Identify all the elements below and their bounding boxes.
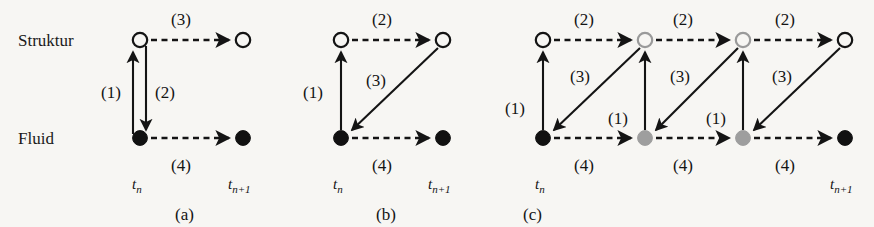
panel-c: (1) (1) (1) (2) (2) (2) (3) (3) (3) (4) … (505, 10, 853, 224)
panel-c-label-4-first: (4) (574, 156, 594, 175)
panel-c-label-1-first: (1) (505, 99, 525, 118)
panel-c-label-3-third: (3) (772, 67, 792, 86)
panel-b-caption: (b) (376, 205, 396, 224)
panel-c-label-2-third: (2) (775, 10, 795, 29)
row-label-fluid: Fluid (18, 129, 54, 148)
panel-c-time-start: tn (535, 176, 545, 195)
panel-c-label-2-second: (2) (673, 10, 693, 29)
panel-b-label-2: (2) (372, 10, 392, 29)
panel-c-node-struktur-3 (838, 33, 852, 47)
panel-c-label-1-second: (1) (608, 109, 628, 128)
figure-root: Struktur Fluid (1) (2) (3) (4) tn (0, 0, 874, 227)
panel-c-node-fluid-3 (838, 131, 853, 146)
panel-c-node-fluid-1 (638, 131, 653, 146)
panel-b-node-fluid-end (436, 131, 451, 146)
panel-a-caption: (a) (175, 205, 194, 224)
panel-c-node-fluid-0 (536, 131, 551, 146)
row-label-struktur: Struktur (18, 31, 74, 50)
panel-b-label-4: (4) (372, 156, 392, 175)
panel-c-node-fluid-2 (736, 131, 751, 146)
panel-c-node-struktur-2 (736, 33, 750, 47)
panel-c-time-end: tn+1 (830, 176, 853, 195)
panel-c-edge-3-third (754, 48, 840, 130)
panel-c-label-3-first: (3) (570, 67, 590, 86)
panel-c-node-struktur-0 (536, 33, 550, 47)
panel-c-label-4-third: (4) (775, 156, 795, 175)
panel-c-label-4-second: (4) (673, 156, 693, 175)
panel-c-label-3-second: (3) (670, 67, 690, 86)
panel-a-node-fluid-end (236, 131, 251, 146)
panel-a-time-start: tn (132, 176, 142, 195)
panel-c-node-struktur-1 (638, 33, 652, 47)
panel-b-time-end: tn+1 (428, 176, 451, 195)
panel-a-node-struktur-start (133, 33, 147, 47)
panel-a-label-1: (1) (101, 83, 121, 102)
panel-c-label-2-first: (2) (574, 10, 594, 29)
panel-b-label-3: (3) (366, 71, 386, 90)
panel-b-time-start: tn (333, 176, 343, 195)
panel-b-node-struktur-end (436, 33, 450, 47)
panel-a-node-fluid-start (133, 131, 148, 146)
panel-b-node-struktur-start (334, 33, 348, 47)
panel-a-label-2: (2) (155, 83, 175, 102)
panel-b-node-fluid-start (334, 131, 349, 146)
panel-a-label-3: (3) (171, 10, 191, 29)
panel-a-node-struktur-end (236, 33, 250, 47)
coupling-scheme-diagram: Struktur Fluid (1) (2) (3) (4) tn (0, 0, 874, 227)
panel-b-edge-3 (352, 48, 438, 130)
panel-b: (1) (2) (3) (4) tn tn+1 (b) (303, 10, 451, 224)
panel-c-caption: (c) (523, 205, 542, 224)
panel-a-label-4: (4) (171, 156, 191, 175)
panel-b-label-1: (1) (303, 83, 323, 102)
panel-a: (1) (2) (3) (4) tn tn+1 (a) (101, 10, 251, 224)
panel-a-time-end: tn+1 (228, 176, 251, 195)
panel-c-label-1-third: (1) (706, 109, 726, 128)
